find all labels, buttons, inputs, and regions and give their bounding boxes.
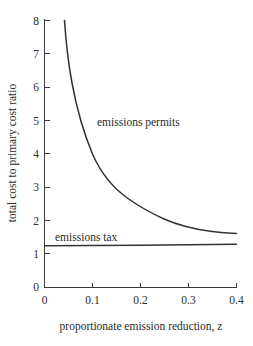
y-tick-label: 8 <box>33 15 39 27</box>
x-tick-label: 0.3 <box>181 294 196 306</box>
y-tick-label: 2 <box>33 215 39 227</box>
x-axis-tick-labels: 0 0.1 0.2 0.3 0.4 <box>42 294 244 306</box>
x-tick-label: 0 <box>42 294 48 306</box>
x-axis-ticks <box>45 283 237 288</box>
y-tick-label: 3 <box>33 181 39 193</box>
y-axis-title: total cost to primary cost ratio <box>6 84 19 223</box>
y-axis-tick-labels: 8 7 6 5 4 3 2 1 0 <box>33 15 39 294</box>
x-axis-title: proportionate emission reduction, z <box>60 320 223 333</box>
y-tick-label: 5 <box>33 115 39 127</box>
chart-canvas: 8 7 6 5 4 3 2 1 0 0 0.1 0.2 0.3 0.4 <box>0 0 253 346</box>
chart-figure: 8 7 6 5 4 3 2 1 0 0 0.1 0.2 0.3 0.4 <box>0 0 253 346</box>
series-line-emissions-tax <box>45 244 237 246</box>
x-tick-label: 0.4 <box>229 294 244 306</box>
y-tick-label: 4 <box>33 148 39 160</box>
y-axis-ticks <box>45 20 50 287</box>
y-tick-label: 7 <box>33 48 39 60</box>
x-tick-label: 0.1 <box>85 294 100 306</box>
y-tick-label: 0 <box>33 281 39 293</box>
x-tick-label: 0.2 <box>133 294 148 306</box>
annotation-emissions-tax: emissions tax <box>55 231 118 243</box>
y-tick-label: 6 <box>33 81 39 93</box>
y-tick-label: 1 <box>33 248 39 260</box>
annotation-emissions-permits: emissions permits <box>97 116 180 129</box>
